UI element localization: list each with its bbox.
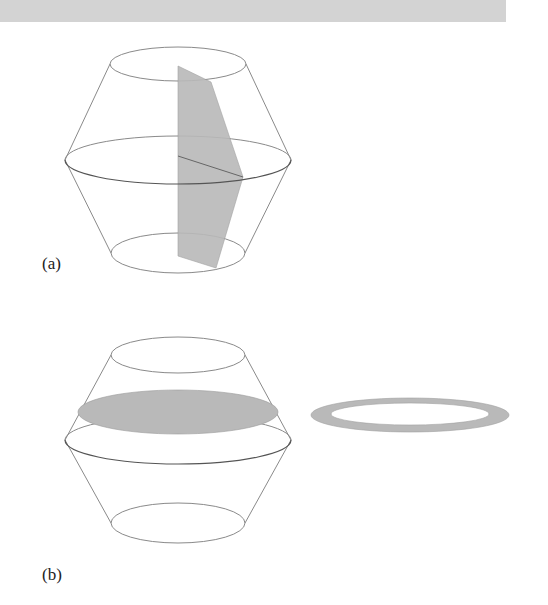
washer-cross-section (311, 398, 509, 432)
diagram-canvas (0, 0, 548, 605)
figure-b-label: (b) (42, 565, 62, 585)
figure-a-label: (a) (42, 254, 61, 274)
figure-b-horizontal-cross-section (78, 390, 278, 434)
figure-b-solid (65, 337, 291, 543)
